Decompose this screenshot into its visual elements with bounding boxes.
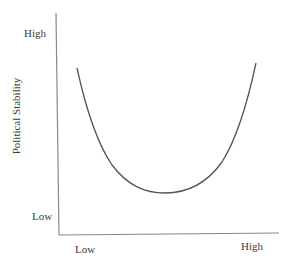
chart-canvas: [0, 0, 296, 265]
y-tick-low-label: Low: [32, 211, 52, 222]
y-axis-title: Political Stability: [11, 78, 22, 155]
x-tick-high: High: [241, 241, 263, 252]
y-axis-line: [56, 13, 59, 235]
x-axis-line: [59, 233, 279, 235]
x-tick-low: Low: [75, 244, 95, 255]
u-curve: [77, 63, 256, 193]
y-tick-high: High: [24, 28, 46, 39]
